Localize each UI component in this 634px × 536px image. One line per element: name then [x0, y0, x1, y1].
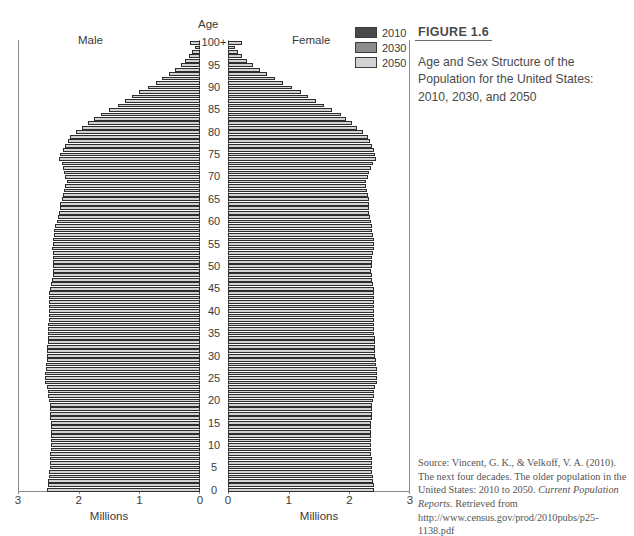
source-italic-1: Current [538, 484, 570, 495]
pyramid-bar-2050 [51, 448, 200, 452]
pyramid-bar-2050 [53, 256, 200, 260]
pyramid-bar-2050 [228, 323, 374, 327]
pyramid-bar-2050 [228, 296, 374, 300]
age-axis-ticks: 0510152025303540455055606570758085909510… [200, 40, 228, 492]
pyramid-bar-2050 [228, 314, 374, 318]
x-tick-label-3: 3 [407, 494, 413, 506]
pyramid-bar-2050 [228, 264, 372, 268]
pyramid-bar-2050 [228, 385, 375, 389]
age-tick-40: 40 [200, 305, 228, 317]
pyramid-bar-2050 [228, 394, 374, 398]
pyramid-bar-2050 [228, 345, 375, 349]
pyramid-bar-2050 [228, 68, 260, 72]
age-tick-35: 35 [200, 327, 228, 339]
pyramid-bar-2050 [228, 211, 369, 215]
pyramid-row [18, 367, 200, 371]
pyramid-bar-2050 [228, 340, 375, 344]
pyramid-bar-2050 [228, 278, 372, 282]
pyramid-bar-2050 [156, 81, 200, 85]
pyramid-bar-2050 [228, 282, 373, 286]
pyramid-bar-2050 [62, 197, 200, 201]
x-tick-label-0: 0 [197, 494, 203, 506]
age-tick-65: 65 [200, 193, 228, 205]
female-panel [228, 40, 410, 492]
pyramid-bar-2050 [228, 452, 371, 456]
pyramid-bar-2050 [47, 354, 200, 358]
pyramid-bar-2050 [228, 175, 368, 179]
pyramid-bar-2050 [53, 238, 200, 242]
pyramid-bar-2050 [48, 483, 200, 487]
pyramid-bar-2050 [228, 358, 376, 362]
female-x-axis-title: Millions [228, 510, 410, 522]
pyramid-bar-2050 [50, 287, 200, 291]
pyramid-bar-2050 [60, 202, 200, 206]
pyramid-bar-2050 [228, 434, 371, 438]
pyramid-bar-2050 [88, 121, 200, 125]
pyramid-bar-2050 [132, 95, 200, 99]
male-x-axis-title: Millions [18, 510, 200, 522]
pyramid-bar-2050 [228, 54, 242, 58]
pyramid-bar-2050 [101, 113, 200, 117]
pyramid-bar-2050 [228, 363, 376, 367]
pyramid-bar-2050 [51, 282, 200, 286]
age-tick-60: 60 [200, 215, 228, 227]
pyramid-bar-2050 [53, 264, 200, 268]
age-tick-5: 5 [200, 461, 228, 473]
pyramid-bar-2050 [54, 229, 200, 233]
age-tick-90: 90 [200, 81, 228, 93]
pyramid-bar-2050 [47, 349, 200, 353]
pyramid-bar-2050 [125, 99, 200, 103]
pyramid-row [18, 376, 200, 380]
pyramid-bar-2050 [228, 46, 235, 50]
pyramid-bar-2050 [228, 90, 301, 94]
pyramid-bar-2050 [50, 403, 200, 407]
pyramid-bar-2050 [228, 425, 371, 429]
pyramid-bar-2050 [228, 439, 371, 443]
age-tick-0: 0 [200, 484, 228, 496]
pyramid-bar-2050 [50, 416, 200, 420]
pyramid-bar-2050 [67, 180, 200, 184]
pyramid-bar-2050 [52, 278, 200, 282]
pyramid-bar-2050 [228, 349, 375, 353]
population-pyramid-chart: Age Male Female 051015202530354045505560… [0, 0, 410, 536]
x-tick-label-2: 2 [346, 494, 352, 506]
pyramid-bar-2050 [50, 461, 200, 465]
pyramid-bar-2050 [228, 260, 372, 264]
pyramid-bar-2050 [64, 189, 200, 193]
pyramid-bar-2050 [57, 220, 200, 224]
pyramid-bar-2050 [228, 121, 352, 125]
pyramid-bar-2050 [228, 305, 374, 309]
pyramid-bar-2050 [51, 421, 200, 425]
pyramid-bar-2050 [228, 372, 377, 376]
x-tick-mark-3 [409, 490, 410, 494]
pyramid-bar-2050 [228, 457, 372, 461]
pyramid-row [18, 380, 200, 384]
pyramid-bar-2050 [228, 488, 374, 492]
pyramid-bar-2050 [48, 323, 200, 327]
age-tick-80: 80 [200, 126, 228, 138]
male-panel [18, 40, 200, 492]
x-tick-label-1: 1 [285, 494, 291, 506]
pyramid-bar-2050 [228, 327, 374, 331]
pyramid-bar-2050 [228, 412, 372, 416]
pyramid-bar-2050 [82, 126, 200, 130]
pyramid-bar-2050 [189, 54, 200, 58]
pyramid-bar-2050 [49, 475, 200, 479]
pyramid-bar-2050 [228, 72, 267, 76]
pyramid-bar-2050 [228, 448, 371, 452]
pyramid-bar-2050 [228, 50, 238, 54]
pyramid-bar-2050 [228, 470, 372, 474]
source-url: http://www.census.gov/prod/2010pubs/p25- [418, 512, 599, 523]
pyramid-bar-2050 [52, 247, 200, 251]
pyramid-bar-2050 [62, 162, 200, 166]
x-tick-mark-3 [18, 490, 19, 494]
pyramid-bar-2050 [228, 224, 372, 228]
pyramid-bar-2050 [228, 247, 374, 251]
pyramid-bar-2050 [53, 273, 200, 277]
pyramid-bar-2050 [228, 416, 372, 420]
pyramid-bar-2050 [228, 430, 371, 434]
pyramid-bar-2050 [49, 296, 200, 300]
pyramid-bar-2050 [49, 314, 200, 318]
pyramid-bar-2050 [76, 130, 200, 134]
pyramid-bar-2050 [48, 479, 200, 483]
